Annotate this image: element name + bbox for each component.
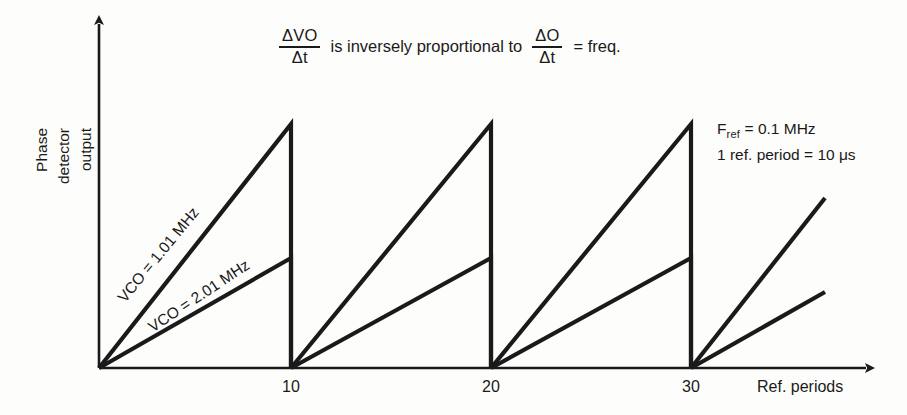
fraction-denominator: Δt <box>536 48 558 67</box>
y-axis-label: Phase detector output <box>14 128 92 278</box>
fraction-numerator: ΔVO <box>279 27 320 46</box>
fraction-delta-vo-delta-t: ΔVO Δt <box>279 27 320 67</box>
y-axis-label-word: Phase <box>33 128 51 172</box>
x-axis-label: Ref. periods <box>757 378 843 396</box>
equation-tail-text: = freq. <box>573 37 620 56</box>
f-ref-subscript: ref <box>726 128 740 140</box>
fraction-denominator: Δt <box>289 48 311 67</box>
curve-vco-2 <box>99 258 825 368</box>
equation-annotation: ΔVO Δt is inversely proportional to ΔO Δ… <box>276 27 621 67</box>
y-axis-label-word: output <box>77 128 95 171</box>
reference-note: Fref = 0.1 MHz 1 ref. period = 10 μs <box>717 117 856 166</box>
f-ref-value: = 0.1 MHz <box>745 120 816 137</box>
x-tick-label-30: 30 <box>682 378 700 396</box>
x-tick-label-20: 20 <box>482 378 500 396</box>
equation-connector-text: is inversely proportional to <box>330 37 522 56</box>
reference-note-line-1: Fref = 0.1 MHz <box>717 117 856 143</box>
y-axis-label-word: detector <box>55 128 73 184</box>
reference-note-line-2: 1 ref. period = 10 μs <box>717 143 856 167</box>
x-tick-label-10: 10 <box>282 378 300 396</box>
figure-root: ΔVO Δt is inversely proportional to ΔO Δ… <box>0 0 907 415</box>
fraction-delta-o-delta-t: ΔO Δt <box>532 27 562 67</box>
fraction-numerator: ΔO <box>532 27 562 46</box>
